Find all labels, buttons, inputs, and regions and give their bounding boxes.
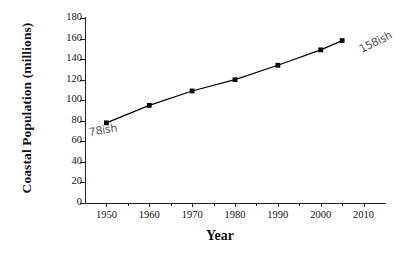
data-point-marker [340, 38, 345, 43]
data-point-marker [233, 77, 238, 82]
data-point-marker [318, 47, 323, 52]
x-axis-title: Year [85, 228, 355, 244]
series-markers [104, 38, 345, 125]
data-point-marker [190, 89, 195, 94]
data-series-layer [0, 0, 416, 256]
chart-figure: Coastal Population (millions) 0204060801… [0, 0, 416, 256]
data-point-marker [147, 103, 152, 108]
data-point-marker [275, 63, 280, 68]
series-line [106, 41, 342, 123]
